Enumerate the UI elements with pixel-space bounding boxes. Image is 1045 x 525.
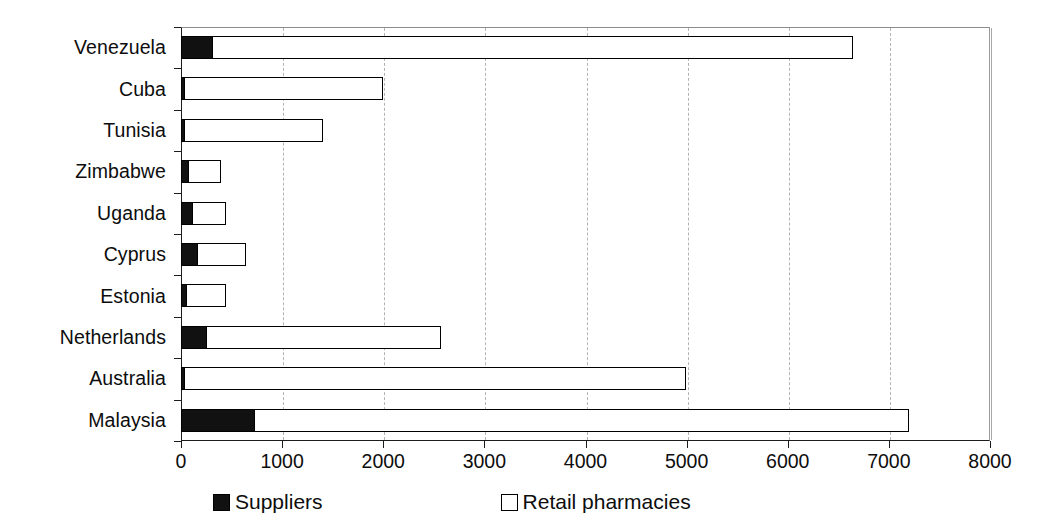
bar-segment-retail-pharmacies[interactable]: [184, 367, 686, 390]
stacked-bar[interactable]: [181, 409, 909, 432]
x-axis-tick-mark: [181, 441, 182, 448]
bar-row: [181, 317, 990, 358]
y-axis-tick-mark: [174, 441, 181, 442]
y-axis-tick-label: Zimbabwe: [75, 151, 166, 192]
y-axis-tick-label: Venezuela: [74, 27, 166, 68]
y-axis-tick-mark: [174, 234, 181, 235]
stacked-bar[interactable]: [181, 160, 221, 183]
bar-rows: [181, 27, 990, 441]
stacked-bar[interactable]: [181, 284, 226, 307]
y-axis-tick-mark: [174, 68, 181, 69]
legend-swatch-filled-square-icon: [213, 494, 230, 511]
x-axis-tick-mark: [383, 441, 384, 448]
bar-segment-retail-pharmacies[interactable]: [186, 284, 226, 307]
bar-row: [181, 110, 990, 151]
stacked-bar[interactable]: [181, 243, 246, 266]
gridline-8000: [991, 28, 992, 440]
x-axis-tick-mark: [889, 441, 890, 448]
bar-segment-retail-pharmacies[interactable]: [184, 119, 323, 142]
x-axis-tick-label: 8000: [968, 450, 1011, 473]
x-axis-tick-mark: [990, 441, 991, 448]
stacked-bar[interactable]: [181, 202, 226, 225]
bar-row: [181, 275, 990, 316]
legend-item-suppliers: Suppliers: [213, 490, 323, 514]
legend-item-retail-pharmacies: Retail pharmacies: [501, 490, 691, 514]
x-axis-tick-label: 2000: [362, 450, 405, 473]
bar-segment-retail-pharmacies[interactable]: [212, 36, 853, 59]
bar-row: [181, 358, 990, 399]
x-axis-tick-label: 7000: [867, 450, 910, 473]
bar-row: [181, 193, 990, 234]
bar-row: [181, 68, 990, 109]
x-axis-tick-mark: [484, 441, 485, 448]
bar-row: [181, 27, 990, 68]
bar-segment-retail-pharmacies[interactable]: [188, 160, 221, 183]
y-axis-tick-mark: [174, 193, 181, 194]
bar-segment-suppliers[interactable]: [181, 160, 188, 183]
y-axis-tick-mark: [174, 27, 181, 28]
legend-label-retail-pharmacies: Retail pharmacies: [523, 490, 691, 514]
bar-row: [181, 234, 990, 275]
bar-segment-suppliers[interactable]: [181, 326, 206, 349]
x-axis-tick-mark: [586, 441, 587, 448]
y-axis-tick-label: Tunisia: [103, 110, 166, 151]
x-axis-tick-mark: [788, 441, 789, 448]
y-axis-tick-mark: [174, 275, 181, 276]
y-axis-tick-mark: [174, 110, 181, 111]
bar-segment-suppliers[interactable]: [181, 409, 254, 432]
stacked-bar[interactable]: [181, 119, 323, 142]
y-axis-tick-label: Uganda: [97, 193, 166, 234]
y-axis-labels: VenezuelaCubaTunisiaZimbabweUgandaCyprus…: [0, 27, 174, 441]
stacked-bar[interactable]: [181, 77, 383, 100]
y-axis-tick-mark: [174, 317, 181, 318]
bar-segment-suppliers[interactable]: [181, 36, 212, 59]
x-axis-tick-label: 4000: [564, 450, 607, 473]
x-axis-labels: 010002000300040005000600070008000: [0, 450, 1045, 478]
bar-segment-retail-pharmacies[interactable]: [184, 77, 383, 100]
legend-label-suppliers: Suppliers: [235, 490, 323, 514]
y-axis-tick-label: Estonia: [100, 275, 166, 316]
x-axis-tick-label: 3000: [463, 450, 506, 473]
y-axis-tick-mark: [174, 358, 181, 359]
bar-segment-retail-pharmacies[interactable]: [197, 243, 246, 266]
x-axis-tick-label: 6000: [766, 450, 809, 473]
x-axis-tick-mark: [687, 441, 688, 448]
bar-row: [181, 400, 990, 441]
x-axis-tick-mark: [282, 441, 283, 448]
x-axis-ticks: [181, 441, 990, 449]
stacked-bar[interactable]: [181, 326, 441, 349]
y-axis-tick-label: Cyprus: [104, 234, 166, 275]
y-axis-tick-label: Malaysia: [88, 400, 166, 441]
stacked-bar[interactable]: [181, 36, 853, 59]
bar-row: [181, 151, 990, 192]
y-axis-tick-label: Netherlands: [60, 317, 166, 358]
stacked-bar[interactable]: [181, 367, 686, 390]
bar-segment-retail-pharmacies[interactable]: [206, 326, 441, 349]
bar-segment-suppliers[interactable]: [181, 202, 192, 225]
y-axis-tick-label: Cuba: [119, 68, 166, 109]
x-axis-tick-label: 1000: [260, 450, 303, 473]
y-axis-tick-mark: [174, 400, 181, 401]
x-axis-tick-label: 5000: [665, 450, 708, 473]
bar-segment-suppliers[interactable]: [181, 243, 197, 266]
y-axis-tick-mark: [174, 151, 181, 152]
x-axis-tick-label: 0: [176, 450, 187, 473]
chart-figure: VenezuelaCubaTunisiaZimbabweUgandaCyprus…: [0, 0, 1045, 525]
bar-segment-retail-pharmacies[interactable]: [254, 409, 909, 432]
y-axis-tick-label: Australia: [89, 358, 166, 399]
legend-swatch-hollow-square-icon: [501, 494, 518, 511]
bar-segment-retail-pharmacies[interactable]: [192, 202, 226, 225]
chart-legend: Suppliers Retail pharmacies: [181, 485, 881, 519]
